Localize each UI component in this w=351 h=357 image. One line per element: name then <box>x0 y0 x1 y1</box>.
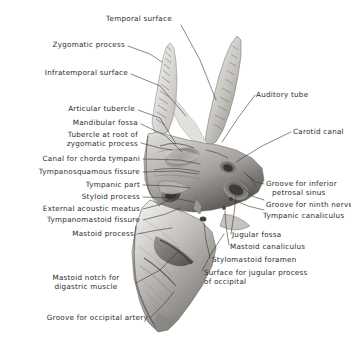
label-auditory-tube: Auditory tube <box>256 91 348 100</box>
label-articular-tubercle: Articular tubercle <box>10 105 135 114</box>
label-tympanic-canaliculus: Tympanic canaliculus <box>263 212 351 221</box>
label-temporal-surface: Temporal surface <box>96 15 182 24</box>
label-canal-chorda-tympani: Canal for chorda tympani <box>4 155 140 164</box>
label-external-acoustic-meatus: External acoustic meatus <box>4 205 140 214</box>
label-groove-inferior-petrosal-line2: petrosal sinus <box>272 189 351 198</box>
label-zygomatic-process: Zygomatic process <box>10 41 125 50</box>
label-surface-jugular-process-line2: of occipital <box>204 278 324 287</box>
label-mastoid-process: Mastoid process <box>20 230 134 239</box>
label-tympanomastoid-fissure: Tympanomastoid fissure <box>4 216 140 225</box>
label-tympanosquamous-fissure: Tympanosquamous fissure <box>4 168 140 177</box>
label-jugular-fossa: Jugular fossa <box>232 231 302 240</box>
label-tympanic-part: Tympanic part <box>10 181 140 190</box>
label-groove-ninth-nerve: Groove for ninth nerve <box>266 201 351 210</box>
anatomical-plate: Temporal surface Zygomatic process Infra… <box>0 0 351 357</box>
label-styloid-process: Styloid process <box>10 193 140 202</box>
label-carotid-canal: Carotid canal <box>293 128 351 137</box>
label-mastoid-canaliculus: Mastoid canaliculus <box>230 243 325 252</box>
label-tubercle-root-zygomatic-line2: zygomatic process <box>10 140 138 149</box>
label-stylomastoid-foramen: Stylomastoid foramen <box>212 256 312 265</box>
label-infratemporal-surface: Infratemporal surface <box>4 69 128 78</box>
label-groove-occipital-artery: Groove for occipital artery <box>14 314 148 323</box>
label-mandibular-fossa: Mandibular fossa <box>10 119 138 128</box>
label-mastoid-notch-line2: digastric muscle <box>38 283 134 292</box>
